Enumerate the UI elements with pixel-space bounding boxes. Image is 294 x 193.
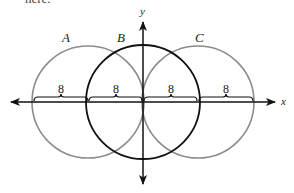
segment-label-4: 8 (223, 82, 229, 96)
segment-label-2: 8 (113, 82, 119, 96)
x-axis-label: x (280, 95, 286, 107)
y-axis-label: y (139, 5, 145, 17)
segment-label-3: 8 (168, 82, 174, 96)
circle-label-b: B (117, 30, 125, 45)
circles-diagram: 8 8 8 8 A B C y x (0, 0, 294, 193)
segment-label-1: 8 (58, 82, 64, 96)
circle-label-c: C (195, 30, 204, 45)
circle-label-a: A (61, 30, 70, 45)
